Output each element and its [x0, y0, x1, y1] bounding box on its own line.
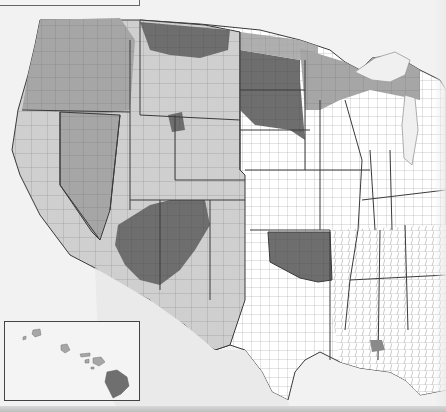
region-pacific-northwest	[22, 18, 135, 115]
island-hawaii	[105, 370, 129, 398]
island-molokai	[80, 353, 90, 357]
island-oahu	[61, 344, 70, 353]
island-lanai	[85, 359, 89, 363]
page-edge-shadow	[434, 0, 446, 412]
island-kahoolawe	[91, 367, 94, 369]
page-bottom-edge	[0, 406, 446, 412]
hawaii-inset	[4, 321, 140, 401]
island-maui	[93, 357, 105, 366]
island-niihau	[23, 336, 26, 340]
legend-box-partial	[0, 0, 140, 6]
island-kauai	[32, 329, 41, 337]
hawaii-islands	[5, 322, 139, 400]
